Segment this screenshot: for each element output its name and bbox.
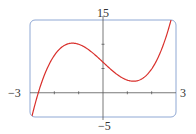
- x-min-label: −3: [8, 87, 21, 99]
- chart-plot: [0, 0, 196, 134]
- x-max-label: 3: [180, 87, 186, 99]
- y-min-label: −5: [98, 120, 111, 132]
- y-max-label: 15: [97, 7, 109, 19]
